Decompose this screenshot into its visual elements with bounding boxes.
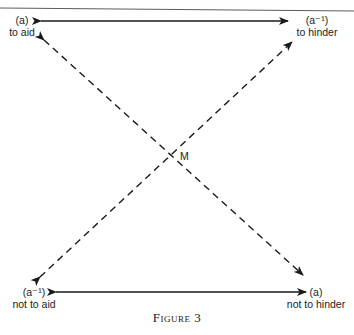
- node-not-to-hinder-label: not to hinder: [278, 298, 354, 310]
- node-not-to-aid-label: not to aid: [6, 298, 62, 310]
- arrow-diagonal-notaid-hinder: [40, 42, 292, 277]
- node-not-to-aid-symbol: (a⁻¹): [6, 286, 62, 298]
- node-not-to-aid: (a⁻¹) not to aid: [6, 286, 62, 310]
- node-to-hinder-label: to hinder: [282, 26, 352, 38]
- diagram-canvas: [0, 0, 354, 335]
- node-to-aid: (a) to aid: [4, 14, 40, 38]
- node-to-hinder-symbol: (a⁻¹): [282, 14, 352, 26]
- top-rule-line: [0, 8, 354, 11]
- figure-caption: Figure 3: [0, 310, 354, 326]
- center-label-m: M: [180, 150, 189, 162]
- node-to-aid-label: to aid: [4, 26, 40, 38]
- node-not-to-hinder-symbol: (a): [278, 286, 354, 298]
- node-to-aid-symbol: (a): [4, 14, 40, 26]
- node-not-to-hinder: (a) not to hinder: [278, 286, 354, 310]
- arrow-diagonal-aid-hinder: [44, 40, 303, 275]
- node-to-hinder: (a⁻¹) to hinder: [282, 14, 352, 38]
